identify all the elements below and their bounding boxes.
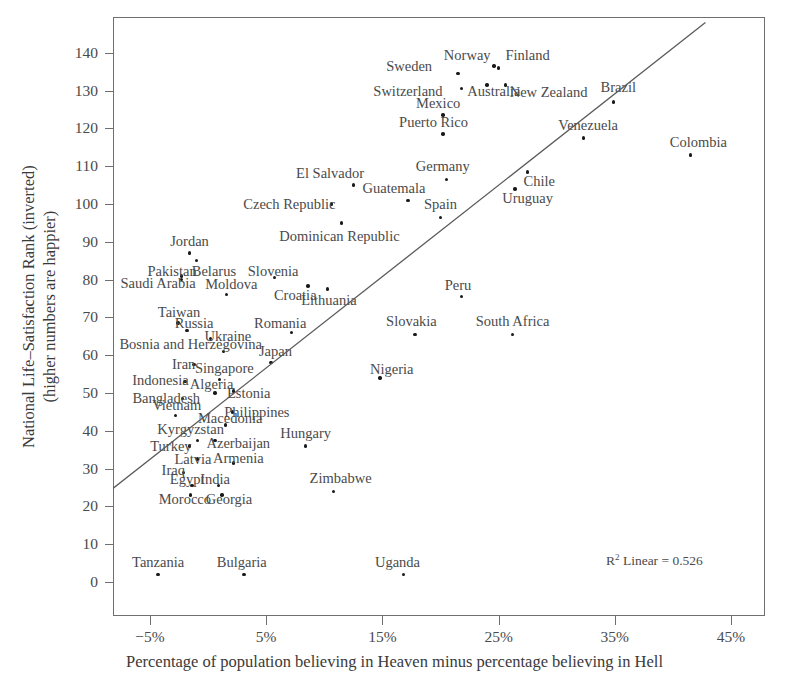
- r-squared-value: 0.526: [672, 553, 702, 568]
- data-point-label: Morocco: [159, 492, 211, 507]
- y-axis-tick-mark: [105, 280, 114, 281]
- x-axis-tick-label: 15%: [352, 629, 412, 645]
- data-point-label: Hungary: [280, 425, 331, 440]
- data-point-label: Germany: [416, 159, 470, 174]
- y-axis-tick-label: 50: [58, 385, 98, 401]
- data-point-label: Brazil: [601, 80, 636, 95]
- x-axis-tick-label: 45%: [701, 629, 761, 645]
- y-axis-tick-mark: [105, 506, 114, 507]
- data-point-label: Estonia: [227, 386, 271, 401]
- y-axis-tick-mark: [105, 431, 114, 432]
- y-axis-tick-label: 90: [58, 234, 98, 250]
- y-axis-tick-label: 80: [58, 272, 98, 288]
- r-squared-text: R2 Linear =: [606, 553, 672, 568]
- data-point[interactable]: [352, 183, 355, 186]
- data-point-label: Iran: [172, 356, 195, 371]
- data-point-label: Jordan: [170, 234, 209, 249]
- data-point[interactable]: [441, 132, 444, 135]
- y-axis-tick-mark: [105, 53, 114, 54]
- y-axis-title-line2: (higher numbers are happier): [40, 7, 61, 607]
- data-point[interactable]: [504, 83, 507, 86]
- y-axis-tick-mark: [105, 128, 114, 129]
- x-axis-tick-mark: [499, 616, 500, 625]
- y-axis-tick-mark: [105, 204, 114, 205]
- x-axis-tick-label: −5%: [120, 629, 180, 645]
- data-point-label: Bosnia and Herzegovina: [119, 337, 262, 352]
- data-point-label: India: [200, 472, 230, 487]
- y-axis-title-line1: National Life–Satisfaction Rank (inverte…: [19, 165, 38, 448]
- data-point-label: Puerto Rico: [399, 114, 468, 129]
- x-axis-tick-mark: [266, 616, 267, 625]
- data-point[interactable]: [612, 100, 615, 103]
- y-axis-tick-label: 100: [58, 196, 98, 212]
- data-point-label: Slovakia: [386, 314, 437, 329]
- data-point-label: El Salvador: [296, 166, 364, 181]
- scatter-plot-figure: 0102030405060708090100110120130140−5%5%1…: [0, 0, 789, 685]
- data-point-label: Armenia: [213, 451, 264, 466]
- data-point-label: Lithuania: [301, 293, 357, 308]
- x-axis-tick-label: 25%: [469, 629, 529, 645]
- data-point[interactable]: [492, 64, 495, 67]
- y-axis-tick-label: 110: [58, 158, 98, 174]
- y-axis-tick-mark: [105, 317, 114, 318]
- data-point-label: Czech Republic: [243, 197, 335, 212]
- data-point-label: Sweden: [386, 59, 432, 74]
- y-axis-tick-label: 0: [58, 574, 98, 590]
- y-axis-tick-mark: [105, 166, 114, 167]
- data-point[interactable]: [497, 66, 500, 69]
- data-point[interactable]: [242, 573, 245, 576]
- y-axis-tick-mark: [105, 242, 114, 243]
- y-axis-tick-label: 60: [58, 347, 98, 363]
- data-point-label: Spain: [424, 197, 457, 212]
- data-point-label: Guatemala: [363, 180, 426, 195]
- data-point-label: Saudi Arabia: [120, 276, 195, 291]
- data-point-label: South Africa: [476, 314, 550, 329]
- y-axis-tick-label: 120: [58, 120, 98, 136]
- y-axis-tick-mark: [105, 544, 114, 545]
- y-axis-tick-label: 130: [58, 83, 98, 99]
- y-axis-tick-mark: [105, 393, 114, 394]
- data-point-label: Indonesia: [132, 373, 188, 388]
- r-squared-annotation: R2 Linear = 0.526: [606, 551, 703, 569]
- data-point[interactable]: [406, 199, 409, 202]
- data-point-label: Colombia: [670, 134, 727, 149]
- data-point[interactable]: [213, 391, 216, 394]
- data-point[interactable]: [582, 136, 585, 139]
- data-point-label: Uruguay: [502, 191, 553, 206]
- data-point[interactable]: [413, 333, 416, 336]
- y-axis-tick-label: 30: [58, 461, 98, 477]
- data-point-label: Tanzania: [132, 555, 184, 570]
- data-point-label: Norway: [444, 47, 491, 62]
- data-point-label: Venezuela: [558, 117, 618, 132]
- data-point[interactable]: [456, 72, 459, 75]
- data-point[interactable]: [445, 178, 448, 181]
- x-axis-tick-mark: [731, 616, 732, 625]
- data-point-label: Chile: [524, 174, 555, 189]
- y-axis-title: National Life–Satisfaction Rank (inverte…: [19, 7, 60, 607]
- x-axis-tick-mark: [615, 616, 616, 625]
- data-point[interactable]: [156, 573, 159, 576]
- data-point[interactable]: [188, 251, 191, 254]
- y-axis-tick-label: 40: [58, 423, 98, 439]
- data-point-label: Japan: [259, 344, 292, 359]
- data-point-label: Peru: [445, 278, 472, 293]
- data-point[interactable]: [439, 216, 442, 219]
- y-axis-tick-mark: [105, 91, 114, 92]
- x-axis-title: Percentage of population believing in He…: [0, 652, 789, 672]
- y-axis-tick-label: 20: [58, 498, 98, 514]
- data-point-label: Romania: [254, 316, 306, 331]
- data-point[interactable]: [689, 153, 692, 156]
- x-axis-tick-mark: [382, 616, 383, 625]
- data-point-label: Uganda: [375, 555, 420, 570]
- data-point-label: Dominican Republic: [279, 229, 399, 244]
- y-axis-tick-mark: [105, 582, 114, 583]
- y-axis-tick-mark: [105, 355, 114, 356]
- data-point-label: Nigeria: [370, 362, 413, 377]
- data-point-label: Finland: [505, 47, 549, 62]
- y-axis-tick-label: 140: [58, 45, 98, 61]
- y-axis-tick-label: 70: [58, 309, 98, 325]
- data-point-label: Singapore: [195, 361, 254, 376]
- data-point-label: Zimbabwe: [310, 471, 372, 486]
- x-axis-tick-mark: [150, 616, 151, 625]
- y-axis-tick-label: 10: [58, 536, 98, 552]
